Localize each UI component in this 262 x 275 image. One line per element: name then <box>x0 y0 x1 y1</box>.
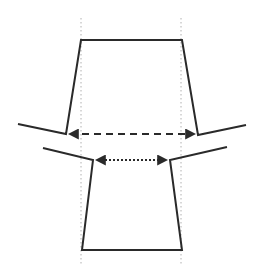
diagram-svg <box>0 0 262 275</box>
upper-trapezoid-outline <box>18 40 246 135</box>
diagram-canvas <box>0 0 262 275</box>
lower-trapezoid-outline <box>43 147 227 250</box>
